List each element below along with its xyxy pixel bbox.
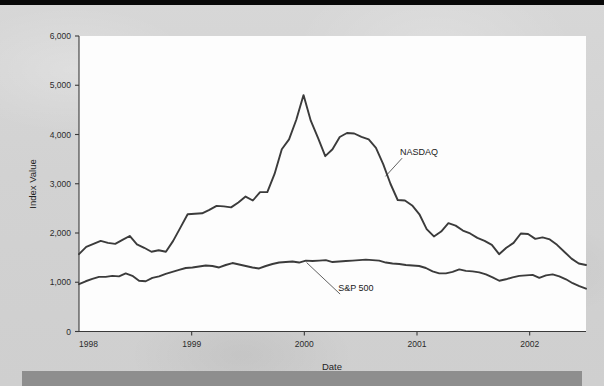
x-tick-label: 2000 bbox=[295, 339, 314, 349]
y-axis-ticks: 01,0002,0003,0004,0005,0006,000 bbox=[50, 31, 79, 337]
annotation-leader-line bbox=[385, 158, 402, 176]
y-tick-label: 0 bbox=[66, 327, 71, 337]
y-tick-label: 4,000 bbox=[50, 130, 72, 140]
series-label-s-p-500: S&P 500 bbox=[338, 283, 373, 293]
line-chart: 01,0002,0003,0004,0005,0006,000 19981999… bbox=[0, 0, 604, 386]
annotation-leader-line bbox=[307, 263, 341, 295]
y-tick-label: 2,000 bbox=[50, 228, 72, 238]
series-line-s-p-500 bbox=[79, 260, 586, 289]
y-tick-label: 5,000 bbox=[50, 80, 72, 90]
x-tick-label: 1998 bbox=[79, 339, 98, 349]
x-tick-label: 2001 bbox=[408, 339, 427, 349]
y-tick-label: 1,000 bbox=[50, 277, 72, 287]
data-series-group bbox=[79, 95, 586, 289]
y-tick-label: 3,000 bbox=[50, 179, 72, 189]
x-axis-ticks: 19981999200020012002 bbox=[79, 332, 539, 349]
y-axis-title: Index Value bbox=[27, 159, 38, 208]
y-tick-label: 6,000 bbox=[50, 31, 72, 41]
series-label-nasdaq: NASDAQ bbox=[400, 147, 438, 157]
series-annotations: NASDAQS&P 500 bbox=[307, 147, 439, 294]
x-tick-label: 2002 bbox=[520, 339, 539, 349]
x-tick-label: 1999 bbox=[182, 339, 201, 349]
series-line-nasdaq bbox=[79, 95, 586, 265]
x-axis-title: Date bbox=[322, 361, 342, 372]
